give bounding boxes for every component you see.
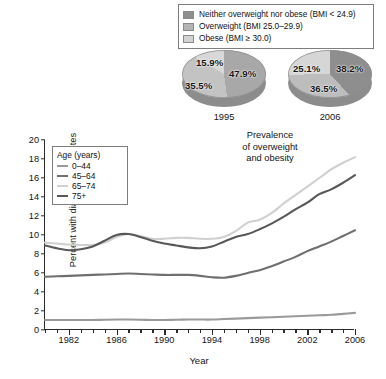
x-tick-mark-minor: [248, 329, 249, 333]
age-legend-label: 45–64: [72, 171, 95, 181]
bmi-legend-label: Obese (BMI ≥ 30.0): [199, 34, 271, 43]
x-tick-label: 1998: [249, 335, 269, 345]
series-line-45-64: [45, 230, 355, 278]
age-swatch-75plus: [57, 195, 68, 197]
line-chart: Percent with diagnosed diabetes 02468101…: [0, 133, 386, 379]
pie-chart-1995: 47.9% 35.5% 15.9% 1995: [182, 50, 266, 112]
x-tick-mark-minor: [331, 329, 332, 333]
x-tick-label: 2006: [345, 335, 365, 345]
x-tick-mark-minor: [283, 329, 284, 333]
age-legend-item: 75+: [57, 191, 123, 201]
age-legend-label: 75+: [72, 191, 86, 201]
figure-root: Neither overweight nor obese (BMI < 24.9…: [0, 0, 386, 379]
age-swatch-0-44: [57, 165, 68, 167]
series-line-0-44: [45, 313, 355, 320]
y-tick-label: 16: [5, 173, 45, 183]
bmi-legend-label: Neither overweight nor obese (BMI < 24.9…: [199, 10, 356, 19]
x-tick-mark-minor: [128, 329, 129, 333]
x-axis-label: Year: [44, 355, 354, 366]
age-legend-label: 65–74: [72, 181, 95, 191]
x-tick-mark-minor: [236, 329, 237, 333]
y-tick-label: 4: [5, 287, 45, 297]
pie-2006-slice-label-obese: 25.1%: [293, 63, 320, 74]
bmi-swatch-obese: [183, 35, 194, 43]
y-tick-label: 0: [5, 325, 45, 335]
x-tick-mark-minor: [343, 329, 344, 333]
pie-chart-group: 47.9% 35.5% 15.9% 1995 38.2% 36.5% 25.1%…: [0, 46, 386, 142]
x-tick-mark-minor: [319, 329, 320, 333]
bmi-swatch-overweight: [183, 23, 194, 31]
bmi-legend-item: Obese (BMI ≥ 30.0): [183, 33, 369, 44]
x-tick-mark-minor: [295, 329, 296, 333]
bmi-swatch-neither: [183, 11, 194, 19]
x-tick-label: 1986: [106, 335, 126, 345]
bmi-legend: Neither overweight nor obese (BMI < 24.9…: [178, 4, 374, 49]
x-tick-mark-minor: [140, 329, 141, 333]
pie-1995-slice-label-neither: 47.9%: [229, 68, 256, 79]
y-tick-label: 14: [5, 192, 45, 202]
x-tick-mark-minor: [81, 329, 82, 333]
age-legend-item: 45–64: [57, 171, 123, 181]
x-tick-mark-minor: [45, 329, 46, 333]
y-tick-label: 8: [5, 249, 45, 259]
age-legend-title: Age (years): [57, 150, 123, 160]
x-tick-mark-minor: [188, 329, 189, 333]
x-tick-mark-minor: [200, 329, 201, 333]
age-legend-label: 0–44: [72, 161, 91, 171]
x-tick-label: 1990: [154, 335, 174, 345]
pie-2006-year-label: 2006: [310, 112, 350, 122]
y-tick-label: 6: [5, 268, 45, 278]
bmi-legend-item: Overweight (BMI 25.0–29.9): [183, 21, 369, 32]
y-tick-label: 18: [5, 154, 45, 164]
bmi-legend-label: Overweight (BMI 25.0–29.9): [199, 22, 303, 31]
pie-2006-slice-label-overweight: 36.5%: [310, 83, 337, 94]
x-tick-mark-minor: [176, 329, 177, 333]
x-tick-mark-minor: [105, 329, 106, 333]
x-tick-label: 1982: [59, 335, 79, 345]
y-tick-label: 20: [5, 135, 45, 145]
age-swatch-45-64: [57, 175, 68, 177]
y-tick-label: 12: [5, 211, 45, 221]
x-tick-label: 2002: [297, 335, 317, 345]
age-swatch-65-74: [57, 185, 68, 187]
x-tick-label: 1994: [202, 335, 222, 345]
x-tick-mark-minor: [224, 329, 225, 333]
y-tick-label: 10: [5, 230, 45, 240]
bmi-legend-item: Neither overweight nor obese (BMI < 24.9…: [183, 9, 369, 20]
age-legend: Age (years) 0–44 45–64 65–74 75+: [52, 146, 128, 205]
x-tick-mark-minor: [272, 329, 273, 333]
age-legend-item: 0–44: [57, 161, 123, 171]
pie-chart-2006: 38.2% 36.5% 25.1% 2006: [288, 50, 372, 112]
pie-1995-slice-label-obese: 15.9%: [196, 57, 223, 68]
x-tick-mark-minor: [57, 329, 58, 333]
pie-1995-slice-label-overweight: 35.5%: [185, 80, 212, 91]
pie-2006-slice-label-neither: 38.2%: [336, 63, 363, 74]
age-legend-item: 65–74: [57, 181, 123, 191]
pie-1995-year-label: 1995: [204, 112, 244, 122]
x-tick-mark-minor: [93, 329, 94, 333]
x-tick-mark-minor: [152, 329, 153, 333]
y-tick-label: 2: [5, 306, 45, 316]
